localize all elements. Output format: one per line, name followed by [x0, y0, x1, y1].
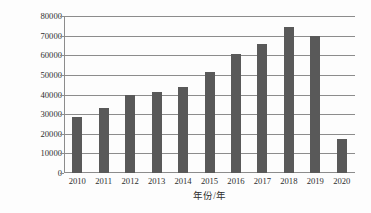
- x-axis-tick-label: 2020: [327, 176, 357, 187]
- y-axis-tick-label: 30000: [18, 110, 62, 119]
- bar: [178, 87, 188, 173]
- bar: [99, 108, 109, 173]
- y-axis-tick-label: 70000: [18, 32, 62, 41]
- y-axis-tick-label: 40000: [18, 91, 62, 100]
- bars-layer: [64, 16, 355, 173]
- y-axis-tick-label: 0: [18, 169, 62, 178]
- bar: [72, 117, 82, 173]
- plot-area: [64, 16, 355, 173]
- bar: [231, 54, 241, 173]
- y-axis-tick-labels: 0100002000030000400005000060000700008000…: [18, 12, 62, 177]
- y-axis-tick-label: 60000: [18, 51, 62, 60]
- y-axis-tick-label: 50000: [18, 71, 62, 80]
- y-axis-tick-label: 20000: [18, 130, 62, 139]
- bar: [205, 72, 215, 173]
- bar: [284, 27, 294, 173]
- x-axis-title: 年份/年: [64, 190, 355, 202]
- x-axis-tick-labels: 2010201120122013201420152016201720182019…: [64, 176, 355, 189]
- bar: [125, 95, 135, 173]
- bar: [310, 36, 320, 173]
- y-axis-tick-label: 10000: [18, 149, 62, 158]
- bar: [337, 139, 347, 173]
- y-axis-tick-mark: [60, 173, 64, 174]
- y-axis-tick-label: 80000: [18, 12, 62, 21]
- bar-chart: 全球人工智能专利申请数量/个 0100002000030000400005000…: [0, 0, 371, 213]
- bar: [152, 92, 162, 173]
- bar: [257, 44, 267, 173]
